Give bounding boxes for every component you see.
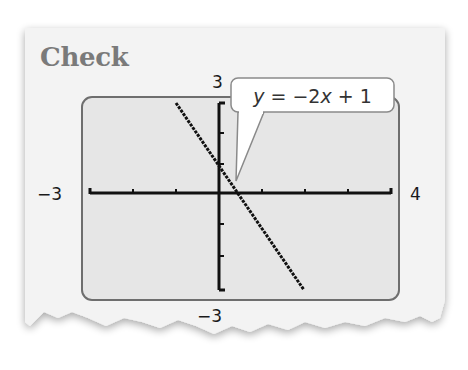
xmin-label: −3	[37, 184, 62, 204]
xmax-label: 4	[410, 184, 421, 204]
equation-label: y = −2x + 1	[231, 80, 394, 112]
equation-var-y: y	[253, 85, 264, 107]
check-heading: Check	[40, 42, 129, 72]
ymin-label: −3	[197, 306, 222, 326]
equation-var-x: x	[320, 85, 331, 107]
equation-end: + 1	[332, 85, 372, 107]
equation-middle: = −2	[264, 85, 320, 107]
ymax-label: 3	[212, 72, 223, 92]
